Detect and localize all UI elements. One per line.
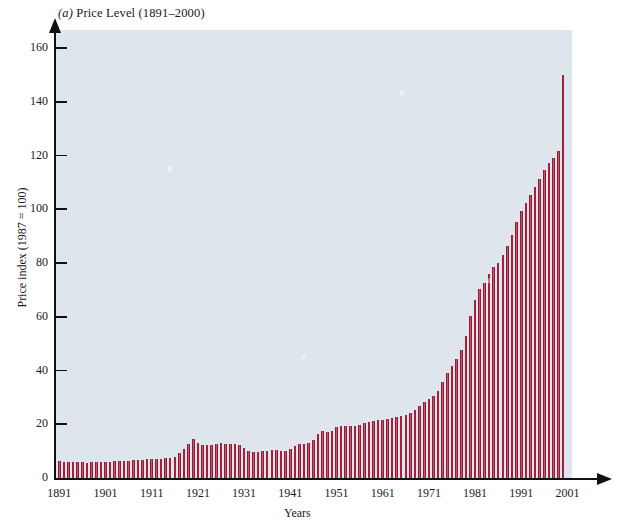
bar [363,423,366,478]
bar [469,316,472,478]
bar [358,425,361,478]
bar [63,462,66,478]
bar [67,462,70,478]
bar [391,418,394,478]
bar [395,417,398,478]
bar [418,406,421,478]
chart-title: (a) Price Level (1891–2000) [58,6,205,21]
bar [451,366,454,478]
bar [515,222,518,478]
bar [201,445,204,478]
bar [317,434,320,478]
bar [100,462,103,478]
bar [377,420,380,478]
bar [307,443,310,478]
x-axis-tick-label: 1921 [174,486,222,501]
bar [552,158,555,478]
bar [511,235,514,478]
bar [247,451,250,478]
bar [206,445,209,478]
bar [127,461,130,478]
y-axis-title: Price index (1987 = 100) [15,148,30,348]
bar [344,426,347,478]
price-level-chart-figure: (a) Price Level (1891–2000) 020406080100… [0,0,621,530]
bar [224,444,227,478]
bar [298,444,301,478]
bar [455,359,458,478]
bar [164,458,167,478]
x-axis-tick-label: 1991 [497,486,545,501]
x-axis-line [54,478,599,480]
bar [284,451,287,478]
x-axis-tick-label: 1941 [266,486,314,501]
bar [137,460,140,478]
bar [109,462,112,478]
bar [488,274,491,478]
bar [538,179,541,478]
x-axis-arrow-icon [597,473,612,485]
bar [405,415,408,478]
bar [478,289,481,478]
bar [58,461,61,478]
bar [423,402,426,478]
bar [174,457,177,478]
bar [386,419,389,478]
bar [275,450,278,478]
y-axis-line [54,30,56,480]
bar [437,391,440,478]
bar [349,426,352,478]
bar [409,413,412,478]
bar [372,421,375,478]
bar [492,267,495,478]
bar [90,462,93,478]
bar [543,170,546,478]
x-axis-tick-label: 1931 [220,486,268,501]
bar [155,459,158,478]
x-axis-tick-label: 1951 [313,486,361,501]
x-axis-tick-label: 1961 [359,486,407,501]
bar [132,460,135,478]
bar [432,396,435,478]
bar [113,461,116,478]
bar [335,427,338,478]
bar [104,462,107,478]
bar [368,422,371,478]
bar [252,452,255,478]
bar [557,151,560,478]
bar [428,399,431,478]
bar [146,459,149,478]
bar [326,432,329,478]
bar [294,446,297,478]
bar [497,263,500,478]
bar [520,211,523,478]
x-axis-tick-label: 1911 [128,486,176,501]
bar [197,443,200,478]
bar [76,462,79,478]
bar [187,444,190,478]
bar [261,451,264,478]
bar [72,462,75,478]
bar [178,453,181,478]
chart-title-text: Price Level (1891–2000) [73,6,205,20]
bar [169,458,172,478]
x-axis-tick-label: 1901 [82,486,130,501]
bar [160,459,163,478]
bar [525,203,528,478]
bar [331,431,334,478]
bar [183,449,186,478]
y-axis-arrow-icon [49,18,61,33]
bar [123,461,126,478]
bar [303,444,306,478]
bar [243,448,246,478]
bar [271,450,274,478]
bar [118,461,121,478]
bar [220,443,223,478]
bar [289,449,292,478]
bar [215,444,218,478]
bar-series [56,30,572,478]
y-axis-tick-label: 40 [2,363,48,378]
bar [441,382,444,478]
bar [340,426,343,478]
bar [506,246,509,478]
bar [150,459,153,478]
